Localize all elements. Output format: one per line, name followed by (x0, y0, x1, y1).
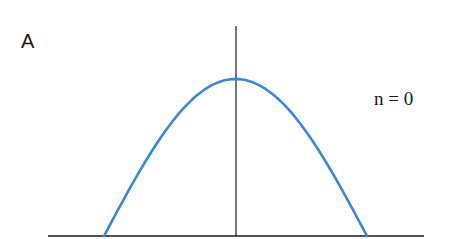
quantum-number-label: n = 0 (374, 88, 413, 110)
panel-label: A (21, 30, 34, 53)
wavefunction-plot (0, 0, 451, 239)
